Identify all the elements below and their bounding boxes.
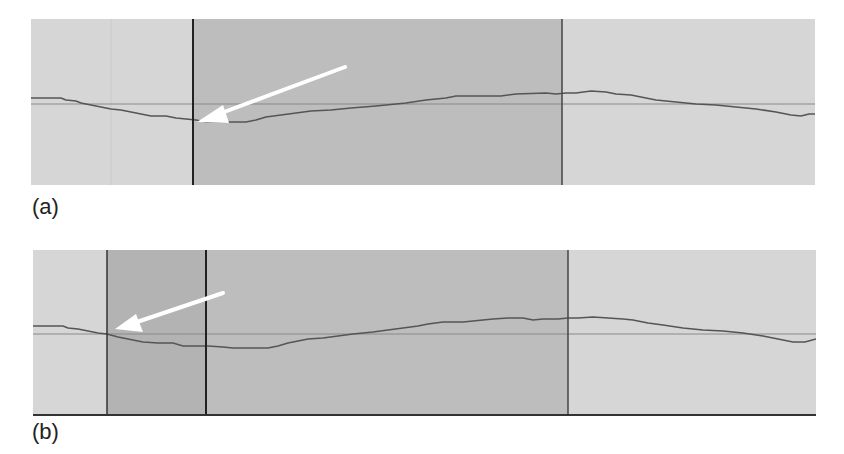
panel-label-a: (a) (32, 194, 59, 220)
waveform-panel-a[interactable] (31, 19, 815, 185)
waveform-canvas-b (33, 250, 816, 414)
waveform-panel-b[interactable] (33, 250, 816, 416)
panel-label-b: (b) (32, 419, 59, 445)
waveform-canvas-a (31, 19, 815, 185)
selection-region-extension (107, 250, 206, 414)
